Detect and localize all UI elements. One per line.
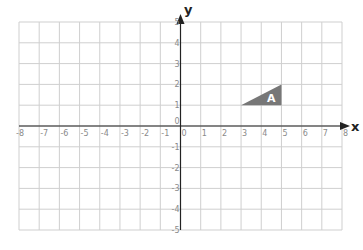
x-tick-label: -5 (81, 129, 89, 138)
coordinate-grid: -8-7-6-5-4-3-2-1012345678-5-4-3-2-112345… (0, 0, 363, 250)
origin-label: 0 (174, 117, 179, 126)
y-tick-label: 4 (174, 39, 179, 48)
x-tick-label: -3 (121, 129, 129, 138)
x-tick-label: 5 (282, 129, 287, 138)
triangle-a-label: A (267, 92, 276, 105)
x-tick-label: -1 (161, 129, 169, 138)
x-tick-label: -7 (40, 129, 48, 138)
x-tick-label: -6 (60, 129, 68, 138)
x-tick-label: 7 (323, 129, 328, 138)
x-tick-label: 4 (262, 129, 267, 138)
x-tick-label: 1 (202, 129, 207, 138)
x-tick-label: -2 (141, 129, 149, 138)
x-tick-label: -4 (101, 129, 109, 138)
y-tick-label: -4 (172, 205, 180, 214)
axes (19, 14, 350, 230)
x-tick-label: 2 (222, 129, 227, 138)
y-tick-label: 1 (174, 101, 179, 110)
x-tick-label: 0 (182, 129, 187, 138)
y-axis-label: y (184, 2, 193, 17)
y-tick-label: -5 (172, 226, 180, 235)
x-tick-label: 6 (303, 129, 308, 138)
y-tick-label: 3 (174, 60, 179, 69)
x-tick-label: -8 (16, 129, 24, 138)
y-tick-label: 2 (174, 80, 179, 89)
x-tick-label: 8 (343, 129, 348, 138)
y-tick-label: -3 (172, 184, 180, 193)
y-tick-label: 5 (174, 18, 179, 27)
y-tick-label: -2 (172, 164, 180, 173)
y-tick-label: -1 (172, 143, 180, 152)
x-axis-label: x (351, 119, 360, 134)
x-tick-label: 3 (242, 129, 247, 138)
